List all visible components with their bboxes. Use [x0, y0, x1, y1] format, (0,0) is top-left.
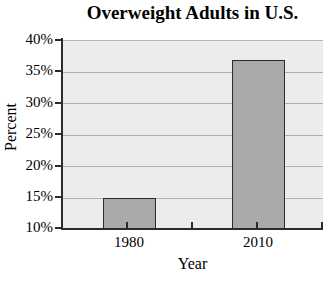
y-tick-25	[55, 133, 62, 135]
y-tick-label-40: 40%	[3, 31, 53, 48]
chart-title: Overweight Adults in U.S.	[62, 0, 323, 26]
plot-area	[62, 40, 323, 229]
x-tick-1	[126, 222, 128, 230]
y-tick-label-35: 35%	[3, 62, 53, 79]
x-tick-label-2010: 2010	[218, 234, 298, 251]
x-tick-3	[256, 222, 258, 230]
y-tick-15	[55, 196, 62, 198]
x-tick-2	[191, 222, 193, 230]
bar-chart: Overweight Adults in U.S. 40% 35% 30% 25…	[0, 0, 323, 282]
y-tick-40	[55, 39, 62, 41]
y-tick-35	[55, 70, 62, 72]
y-tick-30	[55, 102, 62, 104]
y-tick-20	[55, 165, 62, 167]
x-tick-label-1980: 1980	[89, 234, 169, 251]
bar-2010[interactable]	[232, 60, 285, 229]
x-axis-title: Year	[62, 255, 323, 273]
y-tick-label-15: 15%	[3, 188, 53, 205]
y-tick-label-10: 10%	[3, 219, 53, 236]
x-tick-0	[61, 222, 63, 230]
bar-1980[interactable]	[103, 198, 156, 229]
y-axis-title: Percent	[2, 82, 20, 172]
